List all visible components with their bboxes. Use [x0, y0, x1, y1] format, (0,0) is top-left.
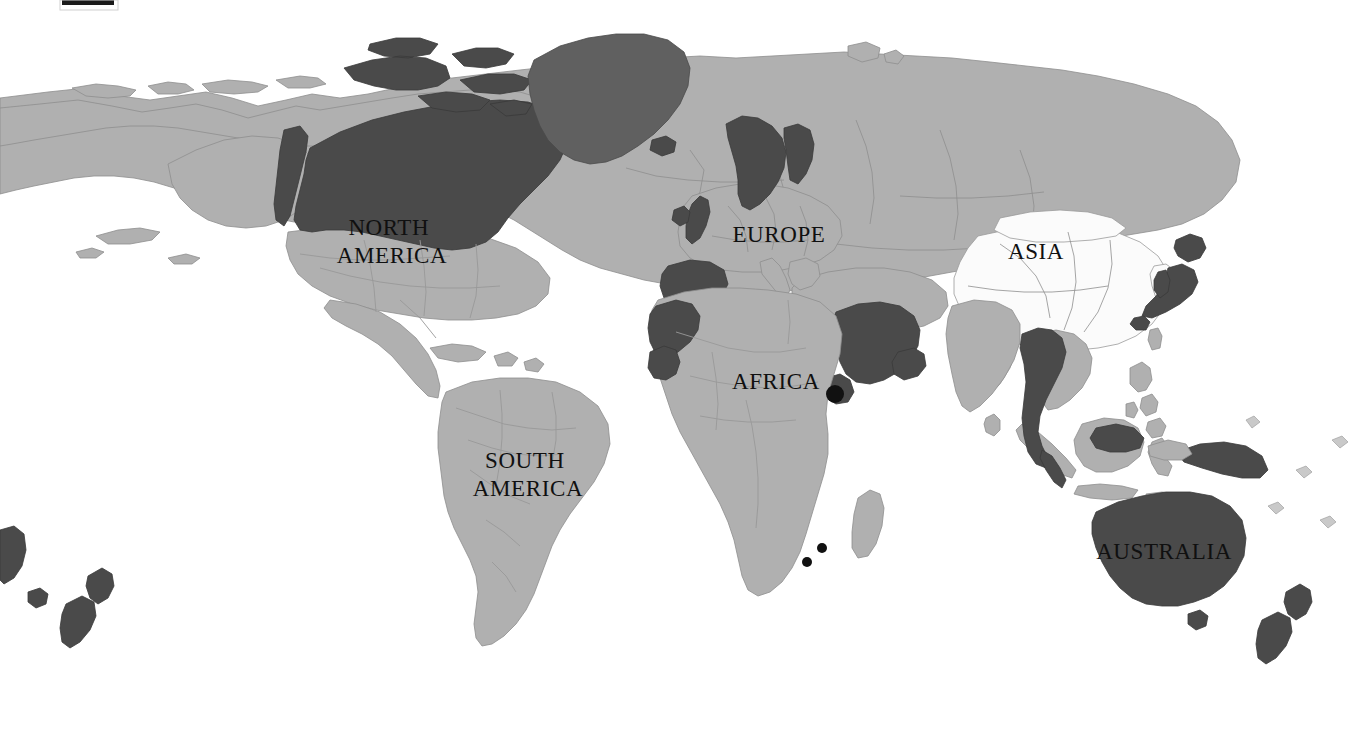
label-north-america-line-2: AMERICA: [337, 243, 447, 268]
label-south-america-line-1: SOUTH: [485, 448, 565, 473]
label-asia-line-1: ASIA: [1008, 239, 1064, 264]
label-asia: ASIA: [1008, 239, 1064, 264]
label-south-america-line-2: AMERICA: [473, 476, 583, 501]
western-sahara-highlight: [648, 346, 680, 380]
horn-of-africa-dot: [826, 385, 844, 403]
world-map-canvas: NORTH AMERICA SOUTH AMERICA EUROPE AFRIC…: [0, 0, 1364, 730]
label-africa: AFRICA: [732, 369, 820, 394]
label-europe: EUROPE: [732, 222, 825, 247]
scale-bar: [62, 0, 114, 5]
swaziland-marker: [802, 557, 812, 567]
world-map-svg: NORTH AMERICA SOUTH AMERICA EUROPE AFRIC…: [0, 0, 1364, 730]
label-africa-line-1: AFRICA: [732, 369, 820, 394]
label-north-america-line-1: NORTH: [348, 215, 429, 240]
label-australia: AUSTRALIA: [1096, 539, 1232, 564]
label-australia-line-1: AUSTRALIA: [1096, 539, 1232, 564]
label-europe-line-1: EUROPE: [732, 222, 825, 247]
lesotho-marker: [817, 543, 827, 553]
